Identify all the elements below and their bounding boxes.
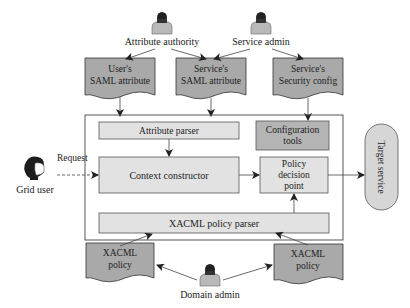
users-saml-attribute-document: User's SAML attribute bbox=[85, 58, 155, 99]
grid-user-label: Grid user bbox=[16, 184, 54, 195]
attribute-parser-box: Attribute parser bbox=[99, 122, 239, 139]
xacml-left-line2: policy bbox=[108, 260, 132, 270]
xacml-right-line2: policy bbox=[296, 261, 320, 271]
domain-admin-label: Domain admin bbox=[180, 289, 240, 300]
services-saml-line2: SAML attribute bbox=[181, 76, 241, 86]
users-saml-line2: SAML attribute bbox=[90, 76, 150, 86]
users-saml-line1: User's bbox=[108, 64, 132, 74]
services-saml-attribute-document: Service's SAML attribute bbox=[176, 58, 246, 99]
attribute-authority-actor: Attribute authority bbox=[125, 12, 200, 47]
policy-decision-point-box: Policy decision point bbox=[260, 157, 328, 193]
xacml-right-line1: XACML bbox=[291, 249, 326, 259]
request-label: Request bbox=[57, 153, 88, 163]
service-admin-label: Service admin bbox=[232, 36, 289, 47]
security-config-line1: Service's bbox=[291, 64, 325, 74]
context-constructor-box: Context constructor bbox=[99, 157, 239, 193]
attribute-authority-label: Attribute authority bbox=[125, 36, 200, 47]
context-constructor-label: Context constructor bbox=[129, 170, 209, 181]
arrow-admin-to-security-config bbox=[272, 49, 303, 59]
pdp-line1: Policy bbox=[282, 159, 307, 169]
arrow-domain-admin-to-xacml-left bbox=[157, 265, 197, 280]
xacml-left-line1: XACML bbox=[103, 248, 138, 258]
configuration-tools-box: Configuration tools bbox=[256, 121, 329, 150]
target-service-node: Target service bbox=[365, 124, 398, 210]
person-icon bbox=[152, 12, 172, 34]
service-admin-actor: Service admin bbox=[232, 12, 289, 47]
configuration-tools-line2: tools bbox=[283, 136, 302, 146]
grid-user-actor: Grid user bbox=[16, 157, 54, 195]
domain-admin-actor: Domain admin bbox=[180, 264, 240, 300]
xacml-policy-right-document: XACML policy bbox=[274, 244, 343, 284]
pdp-line2: decision bbox=[278, 170, 310, 180]
user-head-icon bbox=[24, 157, 44, 180]
arrow-xacml-right-to-parser bbox=[276, 233, 308, 245]
services-saml-line1: Service's bbox=[194, 64, 228, 74]
arrow-domain-admin-to-xacml-right bbox=[223, 265, 272, 280]
person-icon bbox=[251, 12, 271, 34]
arrow-authority-to-services-saml bbox=[171, 49, 206, 59]
services-security-config-document: Service's Security config bbox=[273, 58, 343, 99]
target-service-label: Target service bbox=[376, 140, 386, 193]
xacml-policy-parser-box: XACML policy parser bbox=[99, 213, 329, 233]
attribute-parser-label: Attribute parser bbox=[139, 126, 200, 136]
person-icon bbox=[200, 264, 220, 286]
xacml-policy-left-document: XACML policy bbox=[86, 243, 154, 282]
configuration-tools-line1: Configuration bbox=[266, 125, 320, 135]
arrow-admin-to-services-saml bbox=[214, 49, 250, 59]
xacml-policy-parser-label: XACML policy parser bbox=[169, 218, 260, 229]
arrow-authority-to-users-saml bbox=[126, 49, 155, 59]
architecture-diagram: Attribute authority Service admin Grid u… bbox=[0, 0, 410, 308]
pdp-line3: point bbox=[284, 181, 304, 191]
security-config-line2: Security config bbox=[279, 76, 338, 86]
